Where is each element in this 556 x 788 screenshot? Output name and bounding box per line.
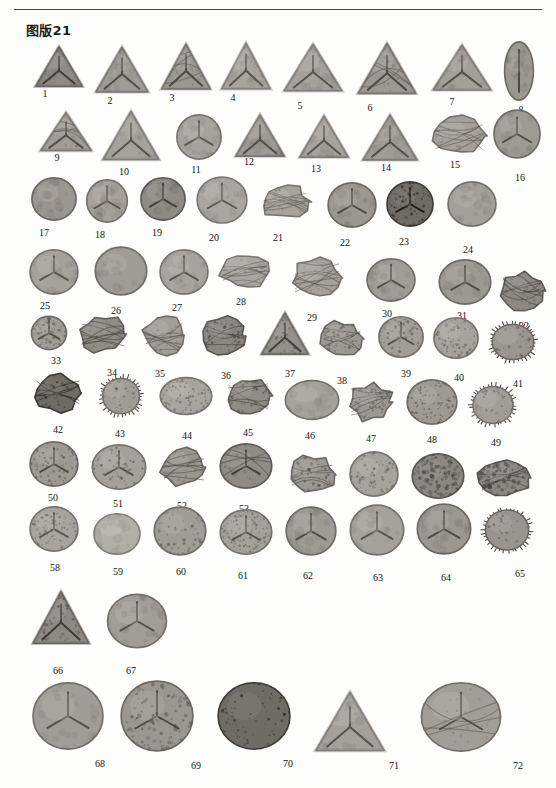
specimen-24	[446, 180, 498, 228]
specimen-micrograph-70b	[215, 680, 293, 752]
specimen-49	[468, 382, 518, 428]
specimen-46	[283, 379, 341, 421]
specimen-68b	[30, 680, 106, 752]
specimen-7	[430, 42, 494, 94]
specimen-label: 43	[111, 428, 129, 439]
specimen-52	[158, 444, 210, 490]
specimen-label: 47	[362, 433, 380, 444]
specimen-label: 42	[49, 424, 67, 435]
specimen-micrograph-69b	[118, 678, 196, 754]
specimen-micrograph-66	[30, 588, 92, 648]
specimen-3	[159, 41, 213, 93]
specimen-micrograph-17	[30, 176, 78, 222]
specimen-50	[28, 440, 80, 488]
specimen-micrograph-72b	[418, 680, 504, 754]
specimen-45	[222, 374, 274, 418]
specimen-label: 5	[291, 100, 309, 111]
specimen-label: 16	[511, 172, 529, 183]
specimen-55	[348, 450, 400, 498]
specimen-label: 65	[511, 568, 529, 579]
specimen-micrograph-31	[437, 258, 493, 306]
specimen-micrograph-14	[360, 112, 420, 164]
specimen-label: 21	[269, 232, 287, 243]
specimen-65	[480, 505, 534, 555]
specimen-micrograph-32	[497, 268, 547, 314]
specimen-micrograph-56	[410, 452, 466, 500]
specimen-63	[348, 503, 406, 557]
specimen-micrograph-20	[195, 175, 249, 225]
specimen-micrograph-42	[30, 371, 86, 415]
specimen-micrograph-54	[285, 452, 339, 498]
specimen-label: 60	[172, 566, 190, 577]
specimen-label: 69	[187, 760, 205, 771]
specimen-micrograph-21	[257, 182, 313, 222]
specimen-micrograph-40	[432, 316, 480, 360]
specimen-micrograph-41	[487, 320, 539, 364]
specimen-25	[28, 248, 80, 296]
specimen-66	[30, 588, 92, 648]
specimen-label: 3	[163, 92, 181, 103]
specimen-label: 46	[301, 430, 319, 441]
specimen-42	[30, 371, 86, 415]
specimen-micrograph-13	[297, 113, 351, 161]
specimen-label: 11	[187, 164, 205, 175]
specimen-label: 18	[91, 229, 109, 240]
specimen-22	[326, 181, 378, 229]
specimen-label: 1	[36, 88, 54, 99]
specimen-label: 24	[459, 244, 477, 255]
specimen-micrograph-59	[92, 512, 142, 556]
specimen-9	[38, 110, 94, 154]
specimen-20	[195, 175, 249, 225]
specimen-micrograph-61	[218, 508, 274, 556]
specimen-19	[139, 176, 187, 222]
specimen-micrograph-10	[100, 108, 162, 164]
specimen-70b	[215, 680, 293, 752]
specimen-1	[33, 44, 85, 90]
specimen-47	[345, 380, 397, 424]
specimen-label: 50	[44, 492, 62, 503]
specimen-6	[355, 40, 419, 98]
specimen-micrograph-28	[216, 250, 274, 292]
specimen-micrograph-15	[428, 113, 490, 159]
specimen-micrograph-25	[28, 248, 80, 296]
specimen-54	[285, 452, 339, 498]
specimen-32	[497, 268, 547, 314]
specimen-51	[90, 443, 148, 491]
specimen-58	[28, 505, 80, 553]
specimen-28	[216, 250, 274, 292]
specimen-37	[259, 310, 311, 358]
specimen-micrograph-11	[175, 113, 223, 161]
specimen-micrograph-71b	[312, 688, 388, 756]
specimen-micrograph-4	[219, 40, 273, 93]
specimen-61	[218, 508, 274, 556]
specimen-micrograph-5	[281, 41, 345, 95]
specimen-27	[158, 248, 210, 296]
specimen-micrograph-64	[415, 502, 473, 556]
specimen-57	[475, 456, 533, 500]
specimen-micrograph-68b	[30, 680, 106, 752]
specimen-69b	[118, 678, 196, 754]
specimen-31	[437, 258, 493, 306]
specimen-label: 20	[205, 232, 223, 243]
specimen-micrograph-24	[446, 180, 498, 228]
specimen-micrograph-30	[365, 257, 417, 303]
specimen-35	[140, 312, 188, 358]
specimen-label: 2	[101, 95, 119, 106]
specimen-72b	[418, 680, 504, 754]
specimen-label: 66	[49, 665, 67, 676]
specimen-label: 37	[281, 368, 299, 379]
specimen-53	[218, 442, 274, 490]
specimen-60	[152, 505, 208, 557]
specimen-67	[105, 592, 169, 650]
specimen-micrograph-29	[288, 254, 346, 302]
specimen-micrograph-7	[430, 42, 494, 94]
specimen-micrograph-6	[355, 40, 419, 98]
specimen-label: 49	[487, 437, 505, 448]
specimen-56	[410, 452, 466, 500]
specimen-micrograph-45	[222, 374, 274, 418]
specimen-micrograph-8	[503, 40, 535, 102]
specimen-62	[284, 505, 338, 557]
specimen-label: 9	[48, 152, 66, 163]
specimen-29	[288, 254, 346, 302]
specimen-micrograph-52	[158, 444, 210, 490]
